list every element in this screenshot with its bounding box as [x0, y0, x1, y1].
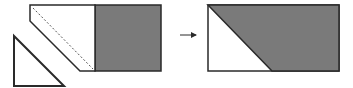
gray-square: [95, 5, 161, 71]
left-figure: [14, 5, 161, 86]
dissection-diagram: [0, 0, 353, 88]
right-figure: [208, 5, 339, 71]
